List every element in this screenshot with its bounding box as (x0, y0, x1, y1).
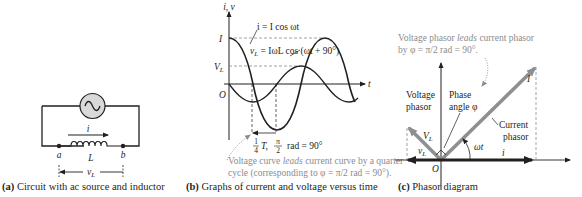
omega-t-arc (463, 139, 470, 160)
voltage-span-indicator: vL (59, 165, 123, 179)
node-a-label: a (57, 150, 62, 160)
voltage-phasor-label-2: phasor (406, 102, 432, 112)
x-axis-label: t (368, 79, 371, 89)
origin-label: O (219, 90, 226, 100)
caption-b: (b) Graphs of current and voltage versus… (186, 181, 378, 193)
inductor-label: L (87, 153, 93, 163)
node-b-label: b (121, 150, 126, 160)
figure-canvas: i a b L vL (a) Circuit with ac source an… (0, 0, 582, 197)
svg-text:4: 4 (254, 146, 258, 155)
phase-angle-label-1: Phase (449, 90, 471, 100)
current-label: i (87, 124, 90, 134)
current-phasor-arrow (441, 68, 535, 160)
node-a-dot (57, 144, 61, 148)
current-equation: i = I cos ωt (257, 22, 300, 32)
node-b-dot (121, 144, 125, 148)
caption-a: (a) Circuit with ac source and inductor (2, 181, 165, 193)
voltage-equation: vL = IωL cos (ωt + 90°) (250, 46, 339, 58)
svg-text:T,: T, (261, 141, 268, 151)
svg-text:1: 1 (254, 137, 258, 146)
leads-note-line2: cycle (corresponding to φ = π/2 rad = 90… (228, 168, 391, 179)
leads-note-line1: Voltage curve leads current curve by a q… (228, 156, 404, 166)
y-axis-label: i, v (223, 2, 235, 12)
vL-label: vL (418, 146, 426, 158)
current-phasor-label-2: phasor (503, 132, 529, 142)
omega-t-label: ωt (474, 142, 484, 152)
inductor-coil-icon (59, 142, 123, 147)
panel-b-graph: i, v t I VL O i = I cos ωt vL = IωL cos … (186, 2, 404, 193)
i-projection-label: i (502, 148, 505, 158)
tick-VL: VL (214, 62, 224, 74)
quarter-period-label: 1 4 T, π 2 rad = 90° (253, 137, 323, 155)
svg-text:vL: vL (87, 167, 95, 179)
voltage-phasor-label-1: Voltage (406, 90, 435, 100)
panel-a-circuit: i a b L vL (a) Circuit with ac source an… (2, 94, 165, 194)
phase-angle-label-2: angle φ (449, 102, 478, 112)
svg-text:rad = 90°: rad = 90° (287, 141, 323, 151)
phasor-origin-label: O (432, 164, 439, 174)
I-label: I (526, 74, 531, 84)
caption-c: (c) Phasor diagram (398, 181, 478, 193)
panel-c-phasor: Voltage phasor leads current phasor by φ… (395, 33, 570, 193)
ac-source-icon (80, 94, 105, 119)
tick-I: I (218, 34, 223, 44)
phasor-note-line1: Voltage phasor leads current phasor (398, 33, 535, 43)
phasor-note-line2: by φ = π/2 rad = 90°. (398, 45, 478, 55)
current-phasor-label-1: Current (499, 120, 528, 130)
svg-text:2: 2 (276, 146, 280, 155)
svg-text:π: π (276, 137, 280, 146)
